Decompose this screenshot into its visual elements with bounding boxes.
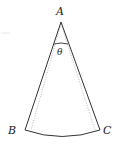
radius-ac xyxy=(61,22,100,130)
label-c: C xyxy=(103,124,112,137)
label-a: A xyxy=(55,5,64,18)
dotted-line-right xyxy=(61,24,95,130)
angle-arc xyxy=(54,43,68,44)
radius-ab xyxy=(25,22,61,130)
label-b: B xyxy=(7,124,16,137)
sector-diagram: A θ B C xyxy=(0,0,121,149)
arc-bc xyxy=(25,130,100,137)
label-theta: θ xyxy=(57,47,63,57)
dotted-line-left xyxy=(31,24,61,130)
